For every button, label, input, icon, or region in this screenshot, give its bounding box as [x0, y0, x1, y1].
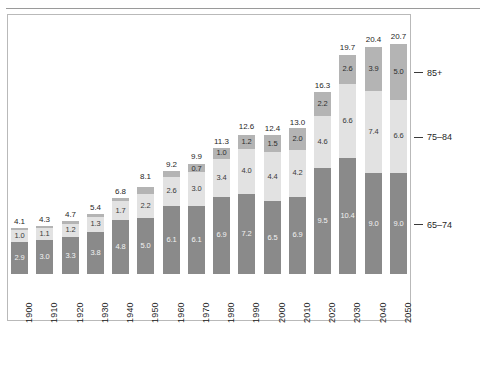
- segment-value-label: 1.0: [213, 149, 230, 157]
- x-axis-tick-label: 2020: [314, 323, 331, 367]
- x-axis-labels: 1900191019201930194019501960197019801990…: [7, 323, 411, 369]
- bar-segment-85plus: 1.0: [213, 148, 230, 159]
- bar-total-label: 11.3: [206, 138, 237, 146]
- legend-dash-icon: [414, 72, 423, 73]
- bar-segment-65-74: 3.8: [87, 232, 104, 274]
- segment-value-label: 3.0: [188, 185, 205, 193]
- bar-segment-65-74: 9.0: [390, 173, 407, 274]
- bar-segment-75-84: 2.2: [137, 194, 154, 219]
- x-axis-tick-label: 1950: [137, 323, 154, 367]
- bar-segment-85plus: 2.2: [314, 92, 331, 117]
- stacked-bar-chart: 1.02.94.11.13.04.31.23.34.71.33.85.41.74…: [0, 0, 486, 371]
- x-axis-tick-label: 1900: [11, 323, 28, 367]
- segment-value-label: 1.0: [11, 232, 28, 240]
- bar-segment-65-74: 7.2: [238, 194, 255, 275]
- bar-segment-85plus: 5.0: [390, 44, 407, 100]
- header-rule: [6, 8, 480, 9]
- segment-value-label: 2.2: [137, 202, 154, 210]
- bar-segment-65-74: 6.5: [264, 201, 281, 274]
- legend-item-65-74: 65–74: [414, 220, 452, 230]
- bar-column: 1.33.85.4: [87, 214, 104, 274]
- segment-value-label: 4.8: [112, 243, 129, 251]
- bar-column: 3.97.49.020.4: [365, 47, 382, 274]
- bar-total-label: 8.1: [130, 173, 161, 181]
- segment-value-label: 1.2: [238, 138, 255, 146]
- bar-segment-75-84: 1.2: [62, 224, 79, 237]
- bar-column: 1.13.04.3: [36, 226, 53, 274]
- bar-segment-75-84: 4.0: [238, 149, 255, 194]
- bar-segment-85plus: 1.5: [264, 135, 281, 152]
- x-axis-tick-label: 2040: [365, 323, 382, 367]
- segment-value-label: 9.0: [390, 220, 407, 228]
- segment-value-label: 7.2: [238, 230, 255, 238]
- bar-segment-85plus: 1.2: [238, 135, 255, 148]
- bar-total-label: 16.3: [307, 82, 338, 90]
- bar-column: 1.74.86.8: [112, 198, 129, 274]
- x-axis-tick-label: 1980: [213, 323, 230, 367]
- x-axis-tick-label: 2010: [289, 323, 306, 367]
- bar-total-label: 6.8: [105, 188, 136, 196]
- bar-segment-65-74: 9.5: [314, 168, 331, 274]
- bar-column: 5.06.69.020.7: [390, 44, 407, 274]
- bar-segment-65-74: 5.0: [137, 218, 154, 274]
- bar-segment-85plus: [137, 187, 154, 194]
- segment-value-label: 6.9: [213, 231, 230, 239]
- segment-value-label: 7.4: [365, 128, 382, 136]
- bar-segment-65-74: 6.9: [213, 197, 230, 274]
- legend-label: 75–84: [427, 132, 452, 142]
- segment-value-label: 4.2: [289, 169, 306, 177]
- segment-value-label: 2.0: [289, 135, 306, 143]
- bar-segment-65-74: 9.0: [365, 173, 382, 274]
- segment-value-label: 2.6: [163, 187, 180, 195]
- legend-dash-icon: [414, 224, 423, 225]
- bar-column: 1.24.07.212.6: [238, 135, 255, 274]
- bar-column: 1.03.46.911.3: [213, 148, 230, 274]
- segment-value-label: 6.9: [289, 231, 306, 239]
- segment-value-label: 4.6: [314, 138, 331, 146]
- bars-layer: 1.02.94.11.13.04.31.23.34.71.33.85.41.74…: [7, 14, 411, 321]
- segment-value-label: 4.4: [264, 173, 281, 181]
- bar-column: 2.24.69.516.3: [314, 92, 331, 274]
- segment-value-label: 5.0: [137, 242, 154, 250]
- segment-value-label: 2.9: [11, 254, 28, 262]
- bar-column: 1.23.34.7: [62, 221, 79, 274]
- bar-segment-65-74: 6.1: [188, 206, 205, 274]
- segment-value-label: 9.5: [314, 217, 331, 225]
- bar-segment-75-84: 4.6: [314, 116, 331, 167]
- bar-segment-75-84: 1.3: [87, 217, 104, 232]
- x-axis-tick-label: 1990: [238, 323, 255, 367]
- segment-value-label: 2.2: [314, 100, 331, 108]
- bar-segment-65-74: 6.9: [289, 197, 306, 274]
- segment-value-label: 2.6: [339, 65, 356, 73]
- segment-value-label: 1.5: [264, 140, 281, 148]
- x-axis-tick-label: 1930: [87, 323, 104, 367]
- chart-legend: 85+75–8465–74: [414, 14, 484, 321]
- legend-item-75-84: 75–84: [414, 132, 452, 142]
- bar-segment-65-74: 10.4: [339, 158, 356, 274]
- bar-column: 1.54.46.512.4: [264, 135, 281, 274]
- segment-value-label: 3.9: [365, 65, 382, 73]
- x-axis-tick-label: 1970: [188, 323, 205, 367]
- bar-total-label: 4.7: [55, 211, 86, 219]
- segment-value-label: 6.1: [163, 236, 180, 244]
- segment-value-label: 9.0: [365, 220, 382, 228]
- bar-column: 1.02.94.1: [11, 228, 28, 274]
- bar-column: 2.25.08.1: [137, 187, 154, 274]
- bar-segment-75-84: 4.4: [264, 152, 281, 201]
- legend-label: 65–74: [427, 220, 452, 230]
- bar-column: 2.66.19.2: [163, 171, 180, 274]
- legend-label: 85+: [427, 68, 442, 78]
- x-axis-tick-label: 2050: [390, 323, 407, 367]
- x-axis-tick-label: 1910: [36, 323, 53, 367]
- bar-segment-85plus: 2.0: [289, 128, 306, 150]
- legend-dash-icon: [414, 137, 423, 138]
- bar-segment-65-74: 3.0: [36, 240, 53, 274]
- bar-segment-85plus: 2.6: [339, 55, 356, 84]
- segment-value-label: 3.4: [213, 174, 230, 182]
- segment-value-label: 6.5: [264, 234, 281, 242]
- bar-segment-75-84: 1.0: [11, 230, 28, 241]
- bar-segment-65-74: 6.1: [163, 206, 180, 274]
- segment-value-label: 3.0: [36, 253, 53, 261]
- x-axis-tick-label: 1920: [62, 323, 79, 367]
- segment-value-label: 6.6: [390, 132, 407, 140]
